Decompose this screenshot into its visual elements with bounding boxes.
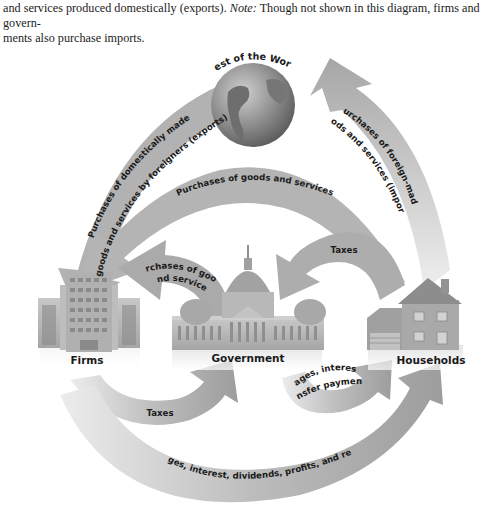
household-taxes-label: Taxes: [330, 245, 357, 255]
firm-taxes-label: Taxes: [146, 408, 173, 418]
government-label: Government: [211, 352, 284, 364]
world-label: Rest of the World: [0, 0, 293, 73]
office-building-icon: [38, 272, 140, 365]
arrow-household-taxes: [276, 232, 405, 300]
firms-label: Firms: [70, 354, 103, 366]
households-label: Households: [397, 354, 466, 366]
circular-flow-diagram: Rest of the World Firms: [0, 0, 495, 517]
globe-icon: [211, 63, 295, 147]
